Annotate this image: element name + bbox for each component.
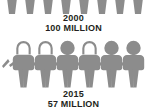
value-label-2015: 57 MILLION (0, 99, 147, 109)
year-label-2015: 2015 (0, 89, 147, 99)
figure-row-2000 (0, 0, 147, 14)
person-figure (88, 0, 116, 14)
pictogram-infographic: 2000 100 MILLION (0, 0, 147, 111)
label-group-2000: 2000 100 MILLION (0, 13, 147, 34)
person-figure (123, 41, 144, 88)
person-figure (0, 0, 26, 14)
person-figure (35, 41, 56, 88)
person-figure (57, 41, 78, 88)
person-figure (101, 41, 122, 88)
person-figure (16, 0, 44, 14)
person-figure (13, 41, 34, 88)
person-figure (79, 41, 100, 88)
person-figure (34, 0, 62, 14)
person-figure (124, 0, 147, 14)
figure-row-2000-graphic (0, 0, 147, 14)
figure-row-2015 (0, 40, 147, 88)
person-figure (70, 0, 98, 14)
year-label-2000: 2000 (0, 13, 147, 23)
person-figure (52, 0, 80, 14)
figure-row-2015-graphic (0, 40, 147, 88)
label-group-2015: 2015 57 MILLION (0, 89, 147, 110)
value-label-2000: 100 MILLION (0, 23, 147, 33)
person-figure (106, 0, 134, 14)
